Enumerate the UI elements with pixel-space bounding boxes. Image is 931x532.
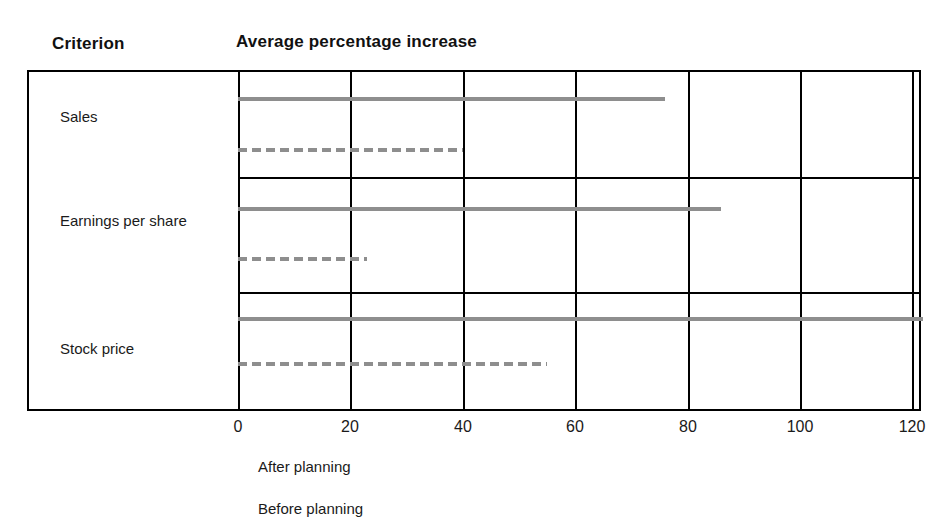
gridline-60 — [575, 70, 577, 411]
value-column-header: Average percentage increase — [236, 32, 477, 52]
chart-figure: Criterion Average percentage increase Sa… — [0, 0, 931, 532]
bar-after-stock-price — [238, 317, 923, 321]
bar-before-sales — [238, 148, 463, 152]
legend-label-before-planning: Before planning — [258, 500, 363, 517]
gridline-40 — [463, 70, 465, 411]
xtick-label-20: 20 — [341, 418, 359, 436]
bar-after-earnings-per-share — [238, 207, 721, 211]
xtick-label-0: 0 — [234, 418, 243, 436]
xtick-label-60: 60 — [566, 418, 584, 436]
xtick-label-120: 120 — [899, 418, 926, 436]
gridline-0 — [238, 70, 240, 411]
criterion-column-header: Criterion — [52, 34, 125, 54]
xtick-label-100: 100 — [787, 418, 814, 436]
gridline-20 — [350, 70, 352, 411]
bar-before-earnings-per-share — [238, 257, 367, 261]
row-label-stock-price: Stock price — [60, 338, 134, 359]
chart-frame — [27, 70, 921, 411]
gridline-120 — [912, 70, 914, 411]
bar-before-stock-price — [238, 362, 547, 366]
gridline-100 — [800, 70, 802, 411]
gridline-80 — [688, 70, 690, 411]
row-label-sales: Sales — [60, 106, 98, 127]
bar-after-sales — [238, 97, 665, 101]
legend-label-after-planning: After planning — [258, 458, 351, 475]
row-separator-2 — [238, 292, 921, 294]
xtick-label-40: 40 — [454, 418, 472, 436]
row-separator-1 — [238, 177, 921, 179]
row-label-earnings-per-share: Earnings per share — [60, 210, 190, 231]
xtick-label-80: 80 — [679, 418, 697, 436]
